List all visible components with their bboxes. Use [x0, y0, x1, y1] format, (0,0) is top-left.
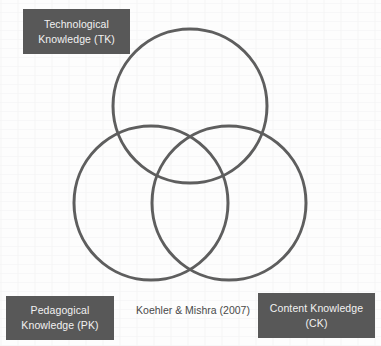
label-pk-line1: Pedagogical: [31, 303, 90, 318]
circle-technological-knowledge: [113, 29, 267, 183]
label-pedagogical-knowledge: Pedagogical Knowledge (PK): [6, 296, 114, 340]
citation-text: Koehler & Mishra (2007): [123, 303, 263, 317]
label-tk-line2: Knowledge (TK): [38, 32, 115, 47]
label-technological-knowledge: Technological Knowledge (TK): [23, 9, 130, 54]
label-ck-line1: Content Knowledge: [270, 301, 363, 316]
tpack-venn-diagram: Technological Knowledge (TK) Pedagogical…: [0, 0, 381, 346]
label-content-knowledge: Content Knowledge (CK): [258, 293, 375, 338]
label-ck-line2: (CK): [306, 316, 328, 331]
label-tk-line1: Technological: [44, 17, 109, 32]
label-pk-line2: Knowledge (PK): [21, 318, 98, 333]
